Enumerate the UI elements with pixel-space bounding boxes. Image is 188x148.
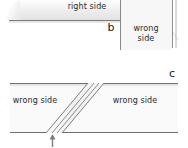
right-side-panel-fill bbox=[20, 0, 120, 20]
left-fold-fill bbox=[6, 0, 20, 20]
arrow-up-icon bbox=[50, 134, 56, 147]
panel-letter-b: b bbox=[105, 22, 117, 34]
panel-b-artwork bbox=[6, 0, 178, 50]
panel-letter-c: c bbox=[166, 68, 178, 80]
sewing-diagram-figure: right side wrong side wrong side wrong s… bbox=[0, 0, 188, 148]
diagram-artwork bbox=[0, 0, 188, 148]
panel-c-artwork bbox=[10, 83, 178, 147]
wrong-side-field-b bbox=[121, 0, 173, 50]
